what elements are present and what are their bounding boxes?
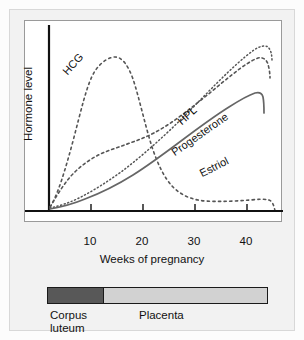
bar-caption-corpus-luteum: Corpus luteum (50, 309, 87, 335)
curve-progesterone (50, 58, 270, 207)
x-tick-label-30: 30 (179, 235, 209, 247)
corpus-label-line1: Corpus (50, 309, 87, 322)
x-tick-label-10: 10 (75, 235, 105, 247)
hormone-source-bar (47, 287, 268, 304)
hormone-curves-svg (25, 21, 283, 223)
x-tick-label-20: 20 (127, 235, 157, 247)
x-tick-label-40: 40 (231, 235, 261, 247)
hormone-levels-figure: HCG HPL Progesterone Estriol Hormone lev… (0, 0, 304, 340)
figure-frame: HCG HPL Progesterone Estriol Hormone lev… (9, 9, 295, 331)
curve-hcg (50, 57, 275, 211)
bar-segment-placenta (104, 288, 267, 303)
corpus-label-line2: luteum (50, 322, 87, 335)
bar-segment-corpus-luteum (48, 288, 104, 303)
y-axis-title: Hormone level (22, 39, 34, 169)
curve-estriol (50, 93, 264, 209)
x-axis-title: Weeks of pregnancy (10, 253, 294, 265)
plot-panel: HCG HPL Progesterone Estriol (24, 20, 282, 222)
bar-caption-placenta: Placenta (139, 309, 184, 322)
